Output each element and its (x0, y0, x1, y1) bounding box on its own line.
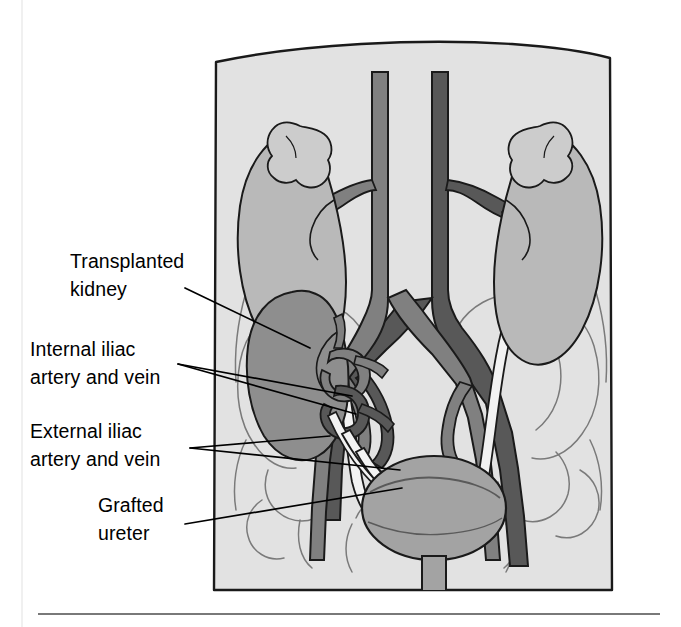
label-internal-iliac-line2: artery and vein (30, 366, 161, 388)
label-transplanted-kidney-line2: kidney (70, 278, 127, 300)
adrenal-gland-left (268, 123, 332, 188)
label-internal-iliac-line1: Internal iliac (30, 338, 136, 360)
kidney-transplant-figure: Transplanted kidney Internal iliac arter… (0, 0, 681, 627)
label-external-iliac-line1: External iliac (30, 420, 142, 442)
label-transplanted-kidney-line1: Transplanted (70, 250, 184, 272)
adrenal-gland-right (509, 123, 573, 188)
label-external-iliac-line2: artery and vein (30, 448, 161, 470)
label-grafted-ureter-line2: ureter (98, 522, 150, 544)
label-grafted-ureter-line1: Grafted (98, 494, 164, 516)
